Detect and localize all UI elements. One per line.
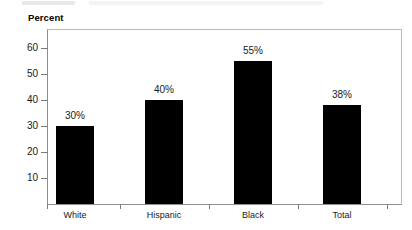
y-tick-50 bbox=[41, 74, 48, 75]
y-axis-label-30: 30 bbox=[2, 121, 38, 131]
y-tick-20 bbox=[41, 152, 48, 153]
x-tick-0 bbox=[47, 204, 48, 209]
y-axis-label-50: 50 bbox=[2, 69, 38, 79]
y-tick-30 bbox=[41, 126, 48, 127]
bar-black bbox=[234, 61, 272, 204]
x-tick-1 bbox=[120, 204, 121, 209]
x-axis-label-white: White bbox=[30, 210, 120, 220]
bar-total bbox=[323, 105, 361, 204]
x-axis-label-hispanic: Hispanic bbox=[119, 210, 209, 220]
y-axis-label-60: 60 bbox=[2, 43, 38, 53]
y-axis-label-40: 40 bbox=[2, 95, 38, 105]
x-tick-2 bbox=[209, 204, 210, 209]
x-axis-label-black: Black bbox=[208, 210, 298, 220]
cropped-caption-sliver bbox=[22, 1, 392, 5]
y-axis-label-10: 10 bbox=[2, 173, 38, 183]
y-tick-60 bbox=[41, 48, 48, 49]
x-tick-4 bbox=[387, 204, 388, 209]
y-axis-label-20: 20 bbox=[2, 147, 38, 157]
bar-value-white: 30% bbox=[45, 111, 105, 121]
x-axis-label-total: Total bbox=[297, 210, 387, 220]
bar-value-total: 38% bbox=[312, 90, 372, 100]
y-tick-10 bbox=[41, 178, 48, 179]
bar-white bbox=[56, 126, 94, 204]
y-tick-40 bbox=[41, 100, 48, 101]
y-axis-title: Percent bbox=[28, 12, 64, 23]
bar-value-hispanic: 40% bbox=[134, 85, 194, 95]
bar-hispanic bbox=[145, 100, 183, 204]
x-tick-3 bbox=[298, 204, 299, 209]
bar-value-black: 55% bbox=[223, 46, 283, 56]
